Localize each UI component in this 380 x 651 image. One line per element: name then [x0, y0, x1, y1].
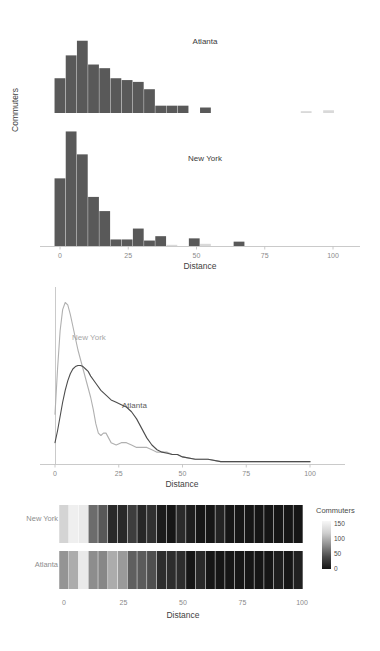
facet-label-newyork: New York	[188, 154, 223, 163]
histogram-bar	[99, 211, 110, 246]
heatmap-cell	[137, 551, 146, 589]
heatmap-cell	[118, 505, 127, 543]
heatmap-cell	[274, 551, 283, 589]
histogram-bar	[234, 242, 245, 246]
colorbar-gradient	[322, 521, 331, 569]
x-tick-label: 100	[304, 470, 316, 477]
heatmap-cell	[79, 505, 88, 543]
histogram-bar	[111, 239, 122, 246]
density-svg: New York Atlanta 0255075100 Distance	[0, 278, 380, 490]
histogram-bar	[99, 68, 110, 113]
heatmap-cell	[89, 551, 98, 589]
heatmap-cell	[235, 551, 244, 589]
density-curve-new-york	[55, 303, 310, 462]
heatmap-cell	[137, 505, 146, 543]
heatmap-cell	[147, 551, 156, 589]
histogram-bar	[133, 229, 144, 246]
heatmap-cell	[176, 505, 185, 543]
heatmap-cell	[108, 505, 117, 543]
heatmap-cell	[215, 505, 224, 543]
histogram-svg: Commuters Atlanta New York 0255075100 Di…	[0, 0, 380, 275]
heatmap-cell	[235, 505, 244, 543]
heatmap-cell	[167, 505, 176, 543]
heatmap-cell	[254, 505, 263, 543]
histogram-bar	[200, 108, 211, 113]
heatmap-cell	[98, 551, 107, 589]
heatmap-cell	[225, 505, 234, 543]
curve-label-atlanta: Atlanta	[122, 401, 147, 410]
curve-label-newyork: New York	[72, 333, 107, 342]
x-tick-label: 100	[296, 599, 308, 606]
histogram-bar	[155, 106, 166, 113]
heatmap-cell	[274, 505, 283, 543]
heatmap-svg: New York Atlanta 0255075100 Distance Com…	[0, 495, 380, 651]
histogram-bar	[155, 236, 166, 246]
heatmap-cell	[245, 505, 254, 543]
histogram-bar	[88, 197, 99, 246]
heatmap-cell	[264, 551, 273, 589]
heatmap-cell	[157, 505, 166, 543]
heatmap-cell	[284, 551, 293, 589]
colorbar-tick-label: 50	[334, 550, 342, 557]
x-tick-label: 100	[327, 252, 339, 259]
x-tick-label: 50	[193, 252, 201, 259]
x-tick-label: 0	[53, 470, 57, 477]
facet-newyork: New York	[55, 131, 245, 246]
histogram-bar	[323, 110, 334, 113]
heatmap-cell	[157, 551, 166, 589]
histogram-bar	[166, 106, 177, 113]
histogram-bar	[178, 106, 189, 113]
histogram-bar	[66, 55, 77, 113]
histogram-bar	[144, 241, 155, 246]
x-tick-label: 25	[124, 252, 132, 259]
x-tick-label: 25	[120, 599, 128, 606]
density-curves	[55, 303, 310, 462]
histogram-bar	[77, 154, 88, 246]
heatmap-cell	[167, 551, 176, 589]
histogram-bar	[55, 178, 66, 246]
x-tick-label: 0	[62, 599, 66, 606]
histogram-bar	[66, 131, 77, 246]
heatmap-cell	[196, 551, 205, 589]
colorbar-ticks: 150100500	[334, 520, 345, 572]
heatmap-cell	[108, 551, 117, 589]
y-axis-title: Commuters	[10, 88, 20, 132]
histogram-bar	[301, 111, 312, 113]
x-axis-ticks: 0255075100	[58, 247, 339, 260]
histogram-bar	[122, 80, 133, 113]
heatmap-cell	[128, 551, 137, 589]
legend-colorbar: Commuters 150100500	[316, 506, 355, 572]
heatmap-cell	[79, 551, 88, 589]
heatmap-cell	[186, 551, 195, 589]
heatmap-cell	[254, 551, 263, 589]
histogram-bar	[133, 82, 144, 113]
panel-density: New York Atlanta 0255075100 Distance	[0, 278, 380, 490]
heatmap-cell	[186, 505, 195, 543]
histogram-bar	[88, 65, 99, 113]
heatmap-cell	[293, 551, 302, 589]
density-x-axis-ticks: 0255075100	[53, 465, 316, 478]
x-tick-label: 50	[179, 599, 187, 606]
x-axis-title: Distance	[183, 261, 216, 271]
heatmap-cell	[59, 505, 68, 543]
x-tick-label: 50	[179, 470, 187, 477]
heatmap-row-label-atlanta: Atlanta	[35, 560, 59, 569]
heatmap-cell	[264, 505, 273, 543]
heatmap-cell	[284, 505, 293, 543]
histogram-bar	[166, 245, 177, 246]
histogram-bar	[55, 78, 66, 113]
legend-title: Commuters	[316, 506, 355, 515]
colorbar-tick-label: 100	[334, 535, 345, 542]
facet-atlanta: Atlanta	[55, 37, 334, 113]
heatmap-cell	[293, 505, 302, 543]
heatmap-cell	[245, 551, 254, 589]
heatmap-cell	[206, 505, 215, 543]
heatmap-cells	[59, 505, 302, 589]
histogram-bar	[144, 89, 155, 113]
heatmap-x-axis-ticks: 0255075100	[62, 599, 308, 606]
x-tick-label: 25	[115, 470, 123, 477]
heatmap-cell	[196, 505, 205, 543]
panel-histograms: Commuters Atlanta New York 0255075100 Di…	[0, 0, 380, 275]
heatmap-cell	[59, 551, 68, 589]
heatmap-cell	[215, 551, 224, 589]
